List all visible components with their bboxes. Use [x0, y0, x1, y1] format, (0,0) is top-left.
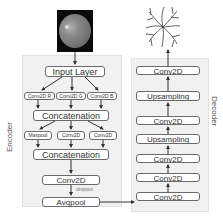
decoder-conv2d-1-box: Conv2D — [136, 66, 200, 75]
decoder-conv2d-4-box: Conv2D — [136, 173, 200, 182]
dropout-label: dropout — [76, 186, 93, 192]
maxpool-box: Maxpool — [24, 131, 52, 140]
fundus-disc — [59, 14, 91, 48]
concatenation-2-box: Concatenation — [33, 149, 109, 160]
branch-conv2d-1-box: Conv2D — [57, 131, 85, 140]
input-layer-box: Input Layer — [45, 66, 105, 77]
avgpool-box: Avgpool — [42, 197, 100, 207]
decoder-conv2d-5-box: Conv2D — [136, 192, 200, 201]
encoder-conv2d-box: Conv2D — [42, 175, 100, 185]
optic-disc-spot — [65, 25, 69, 29]
decoder-conv2d-3-box: Conv2D — [136, 154, 200, 163]
branch-conv2d-2-box: Conv2D — [89, 131, 117, 140]
concatenation-1-box: Concatenation — [33, 110, 109, 121]
vessel-output-image — [143, 4, 183, 50]
conv2d-b-box: Conv2D B — [87, 92, 117, 100]
conv2d-r-box: Conv2D R — [24, 92, 55, 100]
decoder-upsampling-2-box: Upsampling — [136, 134, 200, 144]
conv2d-g-box: Conv2D G — [56, 92, 86, 100]
decoder-label: Decoder — [210, 96, 219, 126]
encoder-label: Encoder — [5, 122, 14, 152]
fundus-input-image — [57, 10, 93, 52]
decoder-upsampling-1-box: Upsampling — [136, 91, 200, 101]
decoder-conv2d-2-box: Conv2D — [136, 116, 200, 125]
